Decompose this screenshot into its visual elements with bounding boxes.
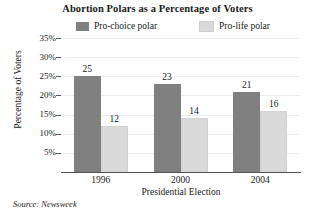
x-axis-line bbox=[61, 172, 301, 173]
y-axis-tick-labels: 35%30%25%20%15%10%5% bbox=[2, 0, 56, 215]
bar-value-label: 21 bbox=[227, 80, 267, 90]
bar-value-label: 23 bbox=[147, 72, 187, 82]
x-axis-title: Presidential Election bbox=[61, 187, 301, 198]
gridline bbox=[61, 38, 300, 39]
bar[interactable] bbox=[260, 111, 287, 172]
source-note: Source: Newsweek bbox=[13, 199, 77, 209]
x-axis-tick-label: 2000 bbox=[151, 175, 211, 186]
chart-figure: Abortion Polars as a Percentage of Voter… bbox=[0, 0, 315, 215]
bar-value-label: 14 bbox=[174, 106, 214, 116]
plot-wrapper: 35%30%25%20%15%10%5% 251223142116 199620… bbox=[0, 0, 315, 215]
bar[interactable] bbox=[181, 118, 208, 172]
plot-area: 251223142116 bbox=[61, 38, 300, 172]
gridline bbox=[61, 57, 300, 58]
x-axis-tick-label: 1996 bbox=[71, 175, 131, 186]
bar[interactable] bbox=[74, 76, 101, 172]
x-axis-tick-label: 2004 bbox=[230, 175, 290, 186]
bar-value-label: 16 bbox=[254, 99, 294, 109]
bar-value-label: 25 bbox=[67, 64, 107, 74]
y-axis-tick-label: 5% bbox=[6, 148, 56, 157]
y-axis-title: Percentage of Voters bbox=[13, 30, 24, 150]
bar[interactable] bbox=[154, 84, 181, 172]
bar[interactable] bbox=[101, 126, 128, 172]
bar-value-label: 12 bbox=[94, 114, 134, 124]
